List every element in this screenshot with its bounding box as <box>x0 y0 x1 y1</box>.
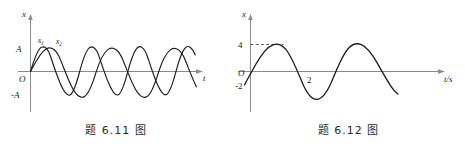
figure-caption-6-11: 题 6.11 图 <box>0 121 232 137</box>
x-axis-arrowhead <box>196 69 203 74</box>
y-axis-label: x <box>241 9 246 19</box>
svg-text:x1: x1 <box>37 36 44 46</box>
chart-6-11-svg: A -A O x t x1 x2 <box>0 0 232 120</box>
y-tick-label-4: 4 <box>238 40 243 50</box>
y-axis-arrowhead <box>248 14 253 20</box>
curve-x2 <box>31 48 197 97</box>
curve-x1 <box>31 47 196 96</box>
y-tick-label-neg-2: -2 <box>235 81 243 91</box>
origin-label: O <box>19 74 26 84</box>
y-tick-label-A: A <box>15 44 22 54</box>
svg-text:x2: x2 <box>55 37 62 47</box>
figure-6-12: 4 -2 2 O x t/s 题 6.12 图 <box>232 0 465 147</box>
plot-6-12: 4 -2 2 O x t/s <box>232 0 465 120</box>
origin-label: O <box>238 68 245 78</box>
figure-6-11: A -A O x t x1 x2 题 6.11 图 <box>0 0 232 147</box>
plot-6-11: A -A O x t x1 x2 <box>0 0 232 120</box>
y-axis-arrowhead <box>28 14 33 20</box>
x-axis-label: t <box>203 73 206 83</box>
curve-label-x1: x1 <box>37 36 44 46</box>
x-tick-label-2: 2 <box>307 75 312 85</box>
figure-caption-6-12: 题 6.12 图 <box>232 121 465 137</box>
y-axis-label: x <box>21 9 26 19</box>
x-axis-label: t/s <box>444 74 453 84</box>
chart-6-12-svg: 4 -2 2 O x t/s <box>232 0 465 120</box>
y-tick-label-neg-A: -A <box>11 90 20 100</box>
curve-label-x2: x2 <box>55 37 62 47</box>
figure-page: A -A O x t x1 x2 题 6.11 图 <box>0 0 465 147</box>
